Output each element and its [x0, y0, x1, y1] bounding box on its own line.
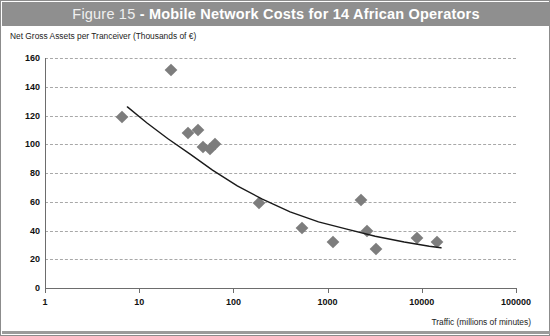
x-axis-tick: 100000	[501, 297, 531, 307]
y-axis-tick: 60	[6, 197, 40, 207]
y-axis-tick: 80	[6, 168, 40, 178]
y-axis-tick-labels: 020406080100120140160	[1, 1, 40, 336]
y-axis-tick: 20	[6, 254, 40, 264]
gridline-horizontal	[45, 173, 516, 174]
x-axis-tick-mark	[233, 288, 234, 293]
data-point-marker	[411, 231, 424, 244]
y-axis-tick: 0	[6, 283, 40, 293]
data-point-marker	[192, 124, 205, 137]
y-axis-tick: 120	[6, 111, 40, 121]
x-axis-tick-mark	[422, 288, 423, 293]
x-axis-tick: 100	[226, 297, 241, 307]
x-axis-tick-mark	[328, 288, 329, 293]
data-point-marker	[370, 243, 383, 256]
x-axis-tick-mark	[45, 288, 46, 293]
data-point-marker	[252, 197, 265, 210]
data-point-marker	[115, 111, 128, 124]
data-point-marker	[165, 63, 178, 76]
x-axis-tick: 1	[42, 297, 47, 307]
y-axis-line	[45, 58, 46, 289]
data-point-marker	[360, 224, 373, 237]
figure-title-bar: Figure 15 - Mobile Network Costs for 14 …	[2, 2, 550, 26]
figure-title-prefix: Figure 15	[72, 6, 139, 22]
data-point-marker	[327, 236, 340, 249]
footer-rule	[2, 331, 550, 334]
y-axis-tick: 140	[6, 82, 40, 92]
data-point-marker	[431, 236, 444, 249]
page-title: Figure 15 - Mobile Network Costs for 14 …	[72, 6, 479, 22]
gridline-horizontal	[45, 202, 516, 203]
x-axis-tick-mark	[516, 288, 517, 293]
x-axis-label: Traffic (millions of minutes)	[431, 317, 531, 327]
figure-container: Figure 15 - Mobile Network Costs for 14 …	[0, 0, 550, 336]
gridline-horizontal	[45, 87, 516, 88]
y-axis-tick: 160	[6, 53, 40, 63]
data-point-marker	[295, 221, 308, 234]
x-axis-tick: 10000	[409, 297, 434, 307]
x-axis-tick: 10	[134, 297, 144, 307]
data-point-marker	[354, 194, 367, 207]
x-axis-tick-mark	[139, 288, 140, 293]
figure-title-main: - Mobile Network Costs for 14 African Op…	[140, 6, 480, 22]
plot-area	[45, 58, 516, 288]
gridline-horizontal	[45, 58, 516, 59]
x-axis-tick: 1000	[318, 297, 338, 307]
gridline-horizontal	[45, 259, 516, 260]
gridline-horizontal	[45, 231, 516, 232]
gridline-horizontal	[45, 144, 516, 145]
x-axis-line	[45, 288, 517, 289]
y-axis-tick: 100	[6, 139, 40, 149]
y-axis-tick: 40	[6, 226, 40, 236]
